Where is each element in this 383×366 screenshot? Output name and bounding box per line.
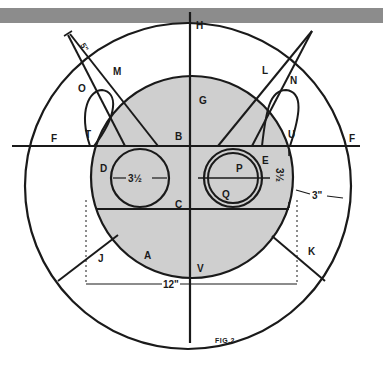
figure-caption: FIG.2	[215, 337, 235, 344]
label-f-right: F	[349, 133, 355, 144]
fig2-diagram: H G B C D E F F T U M N O L P Q A V J K …	[0, 0, 383, 366]
label-m: M	[113, 66, 121, 77]
label-k: K	[308, 246, 316, 257]
dim-label-right-vertical: 3½	[274, 168, 285, 182]
label-d: D	[100, 163, 107, 174]
label-b: B	[175, 131, 182, 142]
label-o: O	[78, 83, 86, 94]
label-a: A	[144, 250, 151, 261]
label-l: L	[262, 65, 268, 76]
label-p: P	[236, 163, 243, 174]
dim-label-left-circle: 3½	[128, 173, 142, 184]
dim-label-ring: 3"	[312, 190, 323, 201]
label-h: H	[196, 20, 203, 31]
label-e: E	[262, 155, 269, 166]
label-t: T	[85, 129, 91, 140]
label-n: N	[290, 75, 297, 86]
label-u: U	[288, 129, 295, 140]
dim-label-overall: 12"	[163, 279, 179, 290]
label-g: G	[199, 95, 207, 106]
dim-label-arm: 5"	[78, 42, 90, 54]
label-q: Q	[222, 189, 230, 200]
label-c: C	[175, 199, 182, 210]
label-j: J	[98, 253, 104, 264]
label-v: V	[197, 263, 204, 274]
label-f-left: F	[51, 133, 57, 144]
